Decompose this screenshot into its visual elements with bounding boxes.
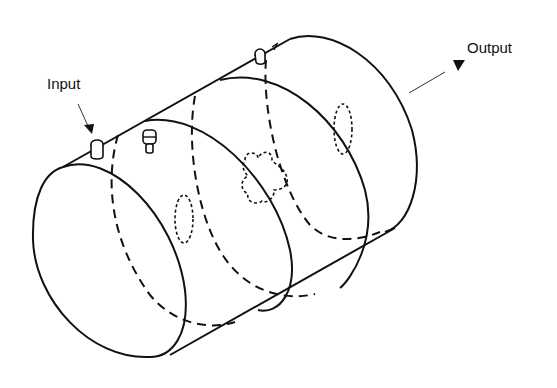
iris-slot-2 <box>334 104 352 154</box>
iris-cross-aperture <box>242 152 287 203</box>
input-port-icon <box>91 140 103 159</box>
input-arrow-head-icon <box>84 124 94 134</box>
section-2-arc <box>145 120 292 311</box>
bottom-edge-line <box>170 228 395 355</box>
output-arrow-line <box>409 72 445 93</box>
front-end-ellipse <box>33 164 186 357</box>
output-label: Output <box>467 39 512 56</box>
input-arrow-line <box>78 104 88 126</box>
back-end-ellipse <box>290 36 417 232</box>
tuning-screw-icon <box>143 130 156 153</box>
partition-2-dashed <box>192 96 315 296</box>
input-label: Input <box>47 75 80 92</box>
partition-1-dashed <box>112 135 235 325</box>
iris-slot-1 <box>175 195 193 243</box>
output-arrow-head-icon <box>453 60 465 71</box>
cylinder-diagram <box>0 0 557 388</box>
